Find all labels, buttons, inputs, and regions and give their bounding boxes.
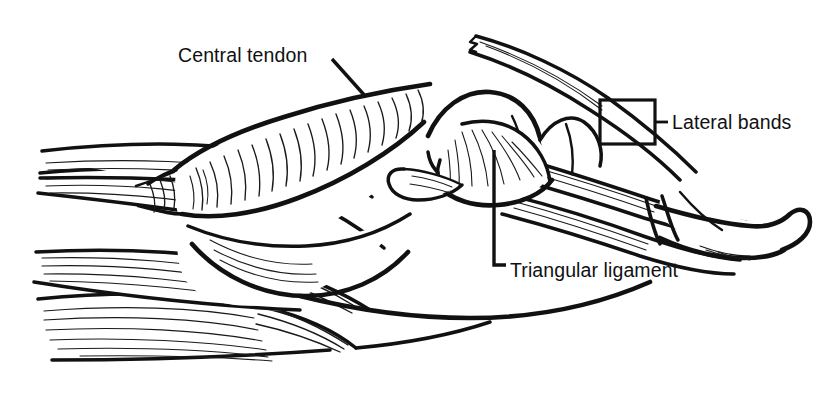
anatomy-illustration: Central tendon Lateral bands Triangular … xyxy=(0,0,822,405)
anatomy-figure: Central tendon Lateral bands Triangular … xyxy=(0,0,822,405)
label-triangular-ligament: Triangular ligament xyxy=(510,259,679,281)
label-central-tendon: Central tendon xyxy=(178,44,307,66)
label-lateral-bands: Lateral bands xyxy=(672,111,792,133)
